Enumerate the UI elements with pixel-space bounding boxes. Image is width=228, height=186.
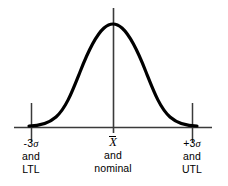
upper-sigma-label: +3σ bbox=[147, 137, 228, 150]
upper-limit-label-group: +3σ and UTL bbox=[147, 137, 228, 177]
sigma-symbol-upper: σ bbox=[195, 138, 200, 149]
upper-conjunction-label: and bbox=[147, 150, 228, 163]
lower-tolerance-limit-label: LTL bbox=[0, 163, 76, 176]
lower-sigma-label: -3σ bbox=[0, 137, 76, 150]
lower-limit-label-group: -3σ and LTL bbox=[0, 137, 76, 177]
overbar bbox=[109, 136, 116, 137]
x-bar-label: X bbox=[68, 135, 158, 149]
normal-curve-figure: -3σ and LTL X and nominal +3σ and UTL bbox=[0, 0, 228, 186]
sigma-symbol-lower: σ bbox=[33, 138, 38, 149]
upper-tolerance-limit-label: UTL bbox=[147, 163, 228, 176]
center-label-group: X and nominal bbox=[68, 135, 158, 176]
lower-conjunction-label: and bbox=[0, 150, 76, 163]
x-bar-symbol: X bbox=[109, 135, 117, 149]
nominal-label: nominal bbox=[68, 162, 158, 175]
center-conjunction-label: and bbox=[68, 149, 158, 162]
